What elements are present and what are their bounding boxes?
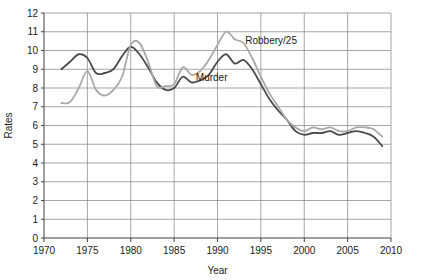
series-annotation-label: Robbery/25 — [245, 35, 297, 46]
chart-container: 0123456789101112 19701975198019851990199… — [0, 0, 421, 280]
line-chart: 0123456789101112 19701975198019851990199… — [0, 0, 421, 280]
data-series-group — [61, 32, 382, 146]
x-tick-label: 1995 — [250, 245, 273, 256]
grid-lines — [44, 13, 391, 238]
x-axis-title: Year — [207, 265, 228, 276]
x-tick-label: 1985 — [163, 245, 186, 256]
x-tick-label: 2010 — [380, 245, 403, 256]
series-line — [61, 32, 382, 137]
y-tick-label: 7 — [32, 101, 38, 112]
y-tick-label: 5 — [32, 139, 38, 150]
y-tick-label: 0 — [32, 233, 38, 244]
x-tick-label: 2005 — [337, 245, 360, 256]
series-annotations: Robbery/25Murder — [196, 35, 298, 84]
x-tick-label: 1990 — [206, 245, 229, 256]
y-tick-label: 4 — [32, 158, 38, 169]
series-annotation-label: Murder — [196, 72, 228, 83]
x-tick-label: 1970 — [33, 245, 56, 256]
x-tick-label: 1980 — [120, 245, 143, 256]
y-tick-label: 3 — [32, 176, 38, 187]
y-tick-label: 6 — [32, 120, 38, 131]
series-line — [61, 47, 382, 146]
y-axis-title: Rates — [3, 112, 14, 138]
y-axis-tick-labels: 0123456789101112 — [27, 8, 39, 244]
y-tick-label: 10 — [27, 45, 39, 56]
y-tick-label: 8 — [32, 83, 38, 94]
y-tick-label: 12 — [27, 8, 39, 19]
y-tick-label: 11 — [28, 26, 39, 37]
x-tick-label: 1975 — [76, 245, 99, 256]
x-axis-tick-labels: 197019751980198519901995200020052010 — [33, 245, 403, 256]
y-tick-label: 2 — [32, 195, 38, 206]
y-tick-label: 1 — [32, 214, 38, 225]
x-tick-label: 2000 — [293, 245, 316, 256]
y-tick-label: 9 — [32, 64, 38, 75]
